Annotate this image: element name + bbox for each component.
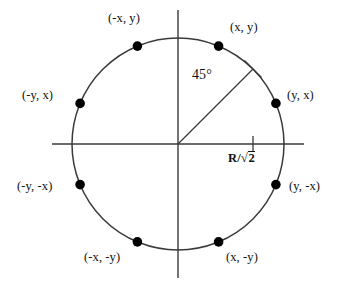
circle-symmetry-figure: (-x, y) (x, y) (-y, x) (y, x) (-y, -x) (… xyxy=(0,0,342,284)
label-point-negx-negy: (-x, -y) xyxy=(84,251,120,264)
label-point-negy-x: (-y, x) xyxy=(22,89,53,102)
point-y-x xyxy=(271,99,281,109)
point-x-negy xyxy=(214,237,224,247)
label-point-x-negy: (x, -y) xyxy=(226,251,258,264)
radical-argument: 2 xyxy=(248,151,255,165)
label-point-negx-y: (-x, y) xyxy=(108,12,140,25)
label-point-negy-negx: (-y, -x) xyxy=(17,180,52,193)
point-negy-negx xyxy=(75,180,85,190)
point-x-y xyxy=(214,41,224,51)
point-negx-negy xyxy=(133,237,143,247)
diagram-canvas xyxy=(0,0,342,284)
label-point-y-negx: (y, -x) xyxy=(289,180,320,193)
r-over-prefix: R/ xyxy=(228,151,241,165)
label-point-y-x: (y, x) xyxy=(287,89,314,102)
point-negx-y xyxy=(133,41,143,51)
radius-45-line xyxy=(178,69,253,144)
point-negy-x xyxy=(75,99,85,109)
radical-symbol: √ xyxy=(241,150,248,165)
label-r-over-sqrt2: R/√2 xyxy=(228,151,255,165)
label-point-x-y: (x, y) xyxy=(230,21,258,34)
label-angle-45: 45° xyxy=(192,68,212,82)
sqrt-icon: √2 xyxy=(241,151,256,165)
point-y-negx xyxy=(271,180,281,190)
